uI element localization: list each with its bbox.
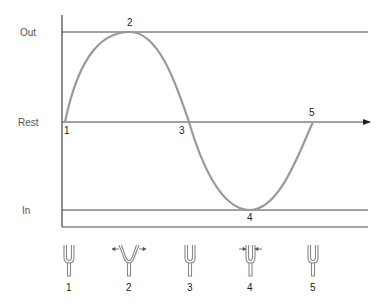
wave-point-3: 3 xyxy=(179,125,185,136)
label-rest: Rest xyxy=(18,117,39,128)
label-out: Out xyxy=(20,27,36,38)
fork-label-1: 1 xyxy=(66,282,72,293)
outward-arrows-icon xyxy=(112,248,146,251)
waveform-diagram: Out Rest In 1 2 3 4 5 1 2 3 xyxy=(0,0,389,306)
wave-point-5: 5 xyxy=(309,107,315,118)
fork-label-2: 2 xyxy=(126,282,132,293)
fork-label-3: 3 xyxy=(187,282,193,293)
fork-label-4: 4 xyxy=(247,282,253,293)
wave-point-4: 4 xyxy=(247,212,253,223)
tuning-fork-icon-5 xyxy=(308,245,318,276)
sine-wave xyxy=(65,32,313,210)
tuning-fork-icon-3 xyxy=(185,245,195,276)
tuning-fork-icon-2 xyxy=(119,245,139,276)
wave-point-2: 2 xyxy=(127,17,133,28)
tuning-fork-icon-4 xyxy=(246,245,255,276)
fork-label-5: 5 xyxy=(310,282,316,293)
inward-arrows-icon xyxy=(239,248,262,251)
wave-point-1: 1 xyxy=(64,125,70,136)
label-in: In xyxy=(22,205,30,216)
tuning-fork-icon-1 xyxy=(64,245,74,276)
